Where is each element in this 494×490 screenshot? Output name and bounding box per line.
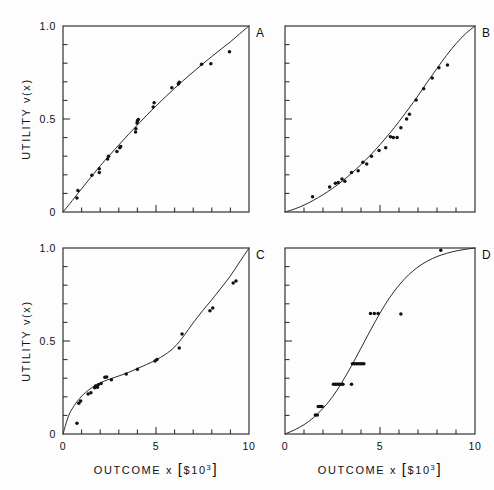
y-tick-label: 1.0 [40,242,56,254]
data-point [180,332,184,336]
data-point [75,196,79,200]
data-point [98,171,102,175]
data-point [365,162,369,166]
data-point [134,127,138,131]
data-point [137,118,141,122]
fit-curve [285,26,475,212]
data-point [369,312,373,316]
x-tick-label: 5 [153,440,159,452]
data-point [107,154,111,158]
data-point [98,167,102,171]
data-point [208,309,212,313]
data-point [124,372,128,376]
data-point [377,149,381,153]
data-points [314,248,443,416]
panel-D: 0510DOUTCOME x [$103] [222,222,494,490]
data-point [99,382,103,386]
data-point [155,358,159,362]
data-point [356,169,360,173]
data-point [362,362,366,366]
data-point [395,136,399,140]
x-tick-label: 0 [282,440,288,452]
data-point [408,113,412,117]
data-point [152,101,156,105]
x-tick-label: 5 [377,440,383,452]
y-axis-title-text: UTILITY v(x) [20,78,32,159]
data-point [178,81,182,85]
data-point [373,312,377,316]
utility-function-figure: 1.00.50AUTILITY v(x) B 1.00.500510CUTILI… [0,0,494,490]
data-point [370,154,374,158]
plot-frame [285,248,475,434]
data-point [75,421,79,425]
data-point [119,145,123,149]
data-point [336,181,340,185]
data-point [110,378,114,382]
y-axis-title-text: UTILITY v(x) [20,300,32,381]
data-point [384,146,388,150]
y-tick-label: 1.0 [40,20,56,32]
y-tick-label: 0 [50,206,56,218]
data-points [311,63,449,198]
data-point [341,382,345,386]
data-point [178,346,182,350]
data-point [437,66,441,70]
panel-B-plot: B [222,0,494,240]
y-tick-label: 0.5 [40,113,56,125]
data-point [446,63,450,67]
data-point [136,368,140,372]
data-point [76,189,80,193]
data-point [343,180,347,184]
data-point [90,174,94,178]
plot-frame [285,26,475,212]
data-point [316,413,320,417]
fit-curve [285,248,475,434]
data-point [350,171,354,175]
panel-D-plot: 0510DOUTCOME x [$103] [222,222,494,490]
data-point [115,150,119,154]
data-point [79,399,83,403]
panel-letter: D [482,248,491,262]
x-tick-label: 10 [469,440,482,452]
data-point [151,105,155,109]
data-point [170,86,174,90]
data-point [439,248,443,252]
y-tick-label: 0 [50,428,56,440]
data-point [361,160,365,164]
data-point [399,126,403,129]
data-point [431,76,435,80]
data-point [422,87,426,91]
data-point [414,98,418,102]
data-point [311,195,315,199]
data-point [405,117,409,121]
data-points [75,279,238,425]
data-point [209,62,213,65]
data-point [105,375,109,379]
x-tick-label: 0 [60,440,66,452]
data-point [134,130,138,134]
data-point [200,62,204,66]
data-point [328,185,332,189]
panel-letter: B [482,26,491,40]
data-point [340,177,344,181]
data-point [211,306,215,310]
x-axis-title: OUTCOME x [$103] [318,460,442,477]
data-points [75,50,231,200]
data-point [89,391,93,395]
data-point [399,312,403,316]
y-axis-title: UTILITY v(x) [20,78,32,159]
panel-B: B [222,0,494,240]
data-point [392,136,396,140]
data-point [376,312,380,316]
x-axis-title: OUTCOME x [$103] [94,460,218,477]
y-tick-label: 0.5 [40,335,56,347]
data-point [320,405,324,409]
data-point [350,382,354,386]
y-axis-title: UTILITY v(x) [20,300,32,381]
